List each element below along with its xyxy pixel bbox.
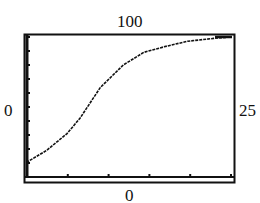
data-curve <box>27 37 231 163</box>
plot-frame <box>25 35 235 183</box>
axis-ticks <box>27 37 231 177</box>
plot <box>0 0 260 203</box>
